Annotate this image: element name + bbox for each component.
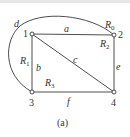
region-label-r1: R1: [19, 55, 30, 68]
node-2: [112, 33, 116, 37]
edge-label-f: f: [67, 96, 71, 107]
graph-diagram: 1 2 3 4 a b c d e f R0 R1 R2 R3 (a): [0, 0, 130, 137]
region-label-r2: R2: [99, 38, 110, 51]
node-3: [30, 90, 34, 94]
region-label-r0: R0: [104, 19, 115, 32]
node-label-1: 1: [23, 28, 28, 39]
node-1: [30, 32, 34, 36]
node-4: [112, 90, 116, 94]
region-label-r3: R3: [44, 77, 55, 90]
edge-label-b: b: [36, 62, 41, 73]
edge-label-a: a: [64, 23, 69, 34]
node-label-3: 3: [29, 97, 34, 108]
edge-a: [32, 34, 114, 35]
node-label-2: 2: [118, 29, 123, 40]
figure-caption: (a): [57, 117, 68, 129]
node-label-4: 4: [111, 97, 116, 108]
edge-label-e: e: [116, 61, 121, 72]
edge-label-c: c: [73, 54, 78, 65]
